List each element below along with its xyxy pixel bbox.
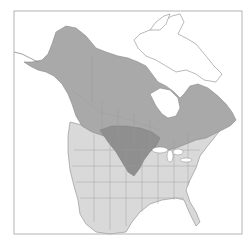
map-canvas [0, 0, 248, 243]
range-map [0, 0, 248, 243]
